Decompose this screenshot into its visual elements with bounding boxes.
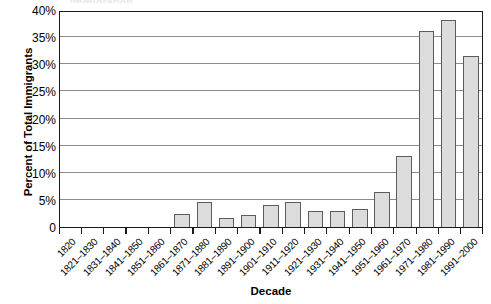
y-axis-tick-labels: 05%10%15%20%25%30%35%40% bbox=[18, 0, 56, 228]
bar[interactable] bbox=[308, 211, 324, 227]
y-tick-label: 5% bbox=[18, 194, 56, 208]
bar-slot bbox=[193, 12, 215, 227]
bar-slot bbox=[393, 12, 415, 227]
bars-layer bbox=[60, 12, 482, 227]
bar[interactable] bbox=[396, 156, 412, 227]
bar-slot bbox=[349, 12, 371, 227]
bar[interactable] bbox=[352, 209, 368, 227]
y-tick-label: 30% bbox=[18, 58, 56, 72]
bar-slot bbox=[282, 12, 304, 227]
bar-slot bbox=[82, 12, 104, 227]
bar-slot bbox=[460, 12, 482, 227]
bar[interactable] bbox=[219, 218, 235, 227]
bar[interactable] bbox=[419, 31, 435, 227]
bar[interactable] bbox=[374, 192, 390, 227]
bar[interactable] bbox=[441, 20, 457, 227]
plot-area bbox=[59, 11, 483, 228]
y-tick-label: 0 bbox=[18, 221, 56, 235]
x-axis-tick-labels: 18201821–18301831–18401841–18501851–1860… bbox=[59, 234, 483, 282]
bar-slot bbox=[215, 12, 237, 227]
bar[interactable] bbox=[197, 202, 213, 227]
x-axis-title: Decade bbox=[59, 285, 483, 297]
bar-slot bbox=[238, 12, 260, 227]
x-label-slot: 1991–2000 bbox=[461, 234, 483, 282]
immigration-bar-chart: Immigration Percent of Total Immigrants … bbox=[0, 0, 491, 304]
y-tick-label: 40% bbox=[18, 4, 56, 18]
bar-slot bbox=[437, 12, 459, 227]
y-tick-label: 25% bbox=[18, 85, 56, 99]
bar[interactable] bbox=[174, 214, 190, 227]
bar[interactable] bbox=[241, 215, 257, 227]
bar-slot bbox=[326, 12, 348, 227]
bar[interactable] bbox=[330, 211, 346, 227]
y-tick-label: 20% bbox=[18, 113, 56, 127]
bar-slot bbox=[304, 12, 326, 227]
y-tick-label: 10% bbox=[18, 167, 56, 181]
clipped-chart-title: Immigration bbox=[70, 0, 330, 3]
bar-slot bbox=[260, 12, 282, 227]
bar[interactable] bbox=[263, 205, 279, 227]
bar-slot bbox=[60, 12, 82, 227]
bar[interactable] bbox=[463, 56, 479, 227]
bar-slot bbox=[104, 12, 126, 227]
y-tick-label: 35% bbox=[18, 31, 56, 45]
bar[interactable] bbox=[285, 202, 301, 227]
bar-slot bbox=[371, 12, 393, 227]
y-tick-label: 15% bbox=[18, 140, 56, 154]
bar-slot bbox=[127, 12, 149, 227]
bar-slot bbox=[171, 12, 193, 227]
bar-slot bbox=[149, 12, 171, 227]
bar-slot bbox=[415, 12, 437, 227]
